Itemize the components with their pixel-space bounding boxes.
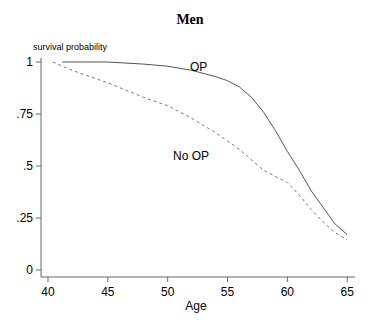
y-tick-label: 1	[26, 55, 33, 69]
y-tick-label: .5	[23, 159, 33, 173]
x-tick-label: 45	[101, 285, 115, 299]
chart-title: Men	[176, 12, 203, 27]
op-annotation: OP	[190, 60, 207, 74]
x-tick-label: 65	[341, 285, 355, 299]
y-axis: 0.25.5.751	[16, 55, 41, 277]
y-tick-label: .75	[16, 107, 33, 121]
y-tick-label: 0	[26, 263, 33, 277]
x-tick-label: 50	[161, 285, 175, 299]
y-axis-label: survival probability	[33, 42, 108, 52]
x-tick-label: 40	[41, 285, 55, 299]
x-tick-label: 60	[281, 285, 295, 299]
x-tick-label: 55	[221, 285, 235, 299]
x-axis: 404550556065	[41, 277, 355, 299]
survival-chart: Men survival probability 0.25.5.751 4045…	[0, 0, 374, 333]
y-tick-label: .25	[16, 211, 33, 225]
x-axis-label: Age	[185, 299, 207, 313]
no-op-annotation: No OP	[173, 149, 209, 163]
